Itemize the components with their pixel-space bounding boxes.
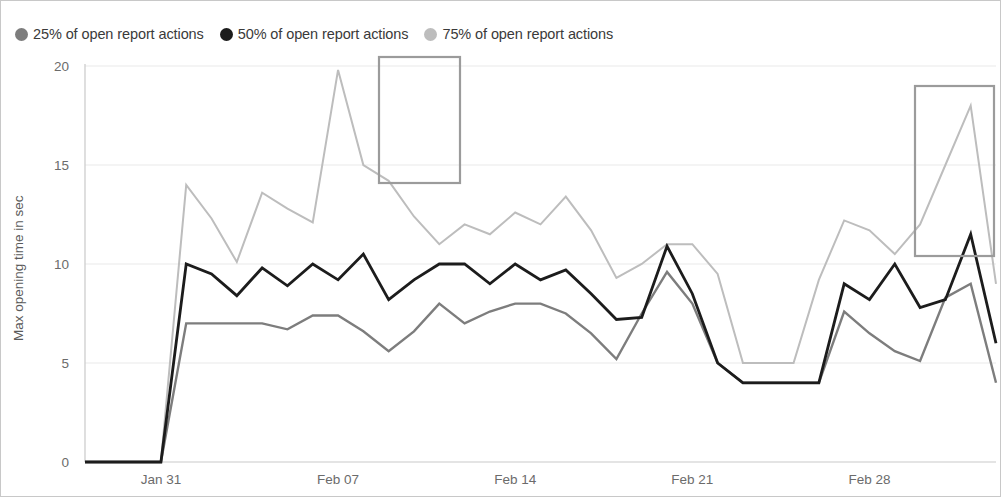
x-tick-label: Feb 07 bbox=[317, 472, 359, 487]
y-tick-label: 5 bbox=[61, 356, 69, 371]
series-line-75 bbox=[85, 70, 996, 462]
plot-area: 05101520 Jan 31Feb 07Feb 14Feb 21Feb 28 … bbox=[1, 1, 1001, 497]
y-tick-label: 0 bbox=[61, 455, 69, 470]
highlight-box-1 bbox=[379, 57, 460, 183]
series-line-50 bbox=[85, 234, 996, 462]
x-tick-label: Feb 28 bbox=[848, 472, 890, 487]
series-line-25 bbox=[85, 272, 996, 462]
y-tick-label: 10 bbox=[54, 257, 69, 272]
line-chart-svg: 05101520 Jan 31Feb 07Feb 14Feb 21Feb 28 … bbox=[1, 1, 1001, 497]
y-tick-label: 15 bbox=[54, 158, 69, 173]
x-tick-label: Jan 31 bbox=[141, 472, 182, 487]
x-tick-label: Feb 14 bbox=[494, 472, 537, 487]
y-axis-title: Max opening time in sec bbox=[11, 195, 26, 341]
series-lines bbox=[85, 70, 996, 462]
y-tick-label: 20 bbox=[54, 59, 69, 74]
gridlines bbox=[85, 66, 996, 363]
chart-card: 25% of open report actions 50% of open r… bbox=[0, 0, 1001, 497]
x-tick-label: Feb 21 bbox=[671, 472, 713, 487]
x-axis: Jan 31Feb 07Feb 14Feb 21Feb 28 bbox=[141, 472, 891, 487]
highlight-box-2 bbox=[915, 86, 994, 256]
